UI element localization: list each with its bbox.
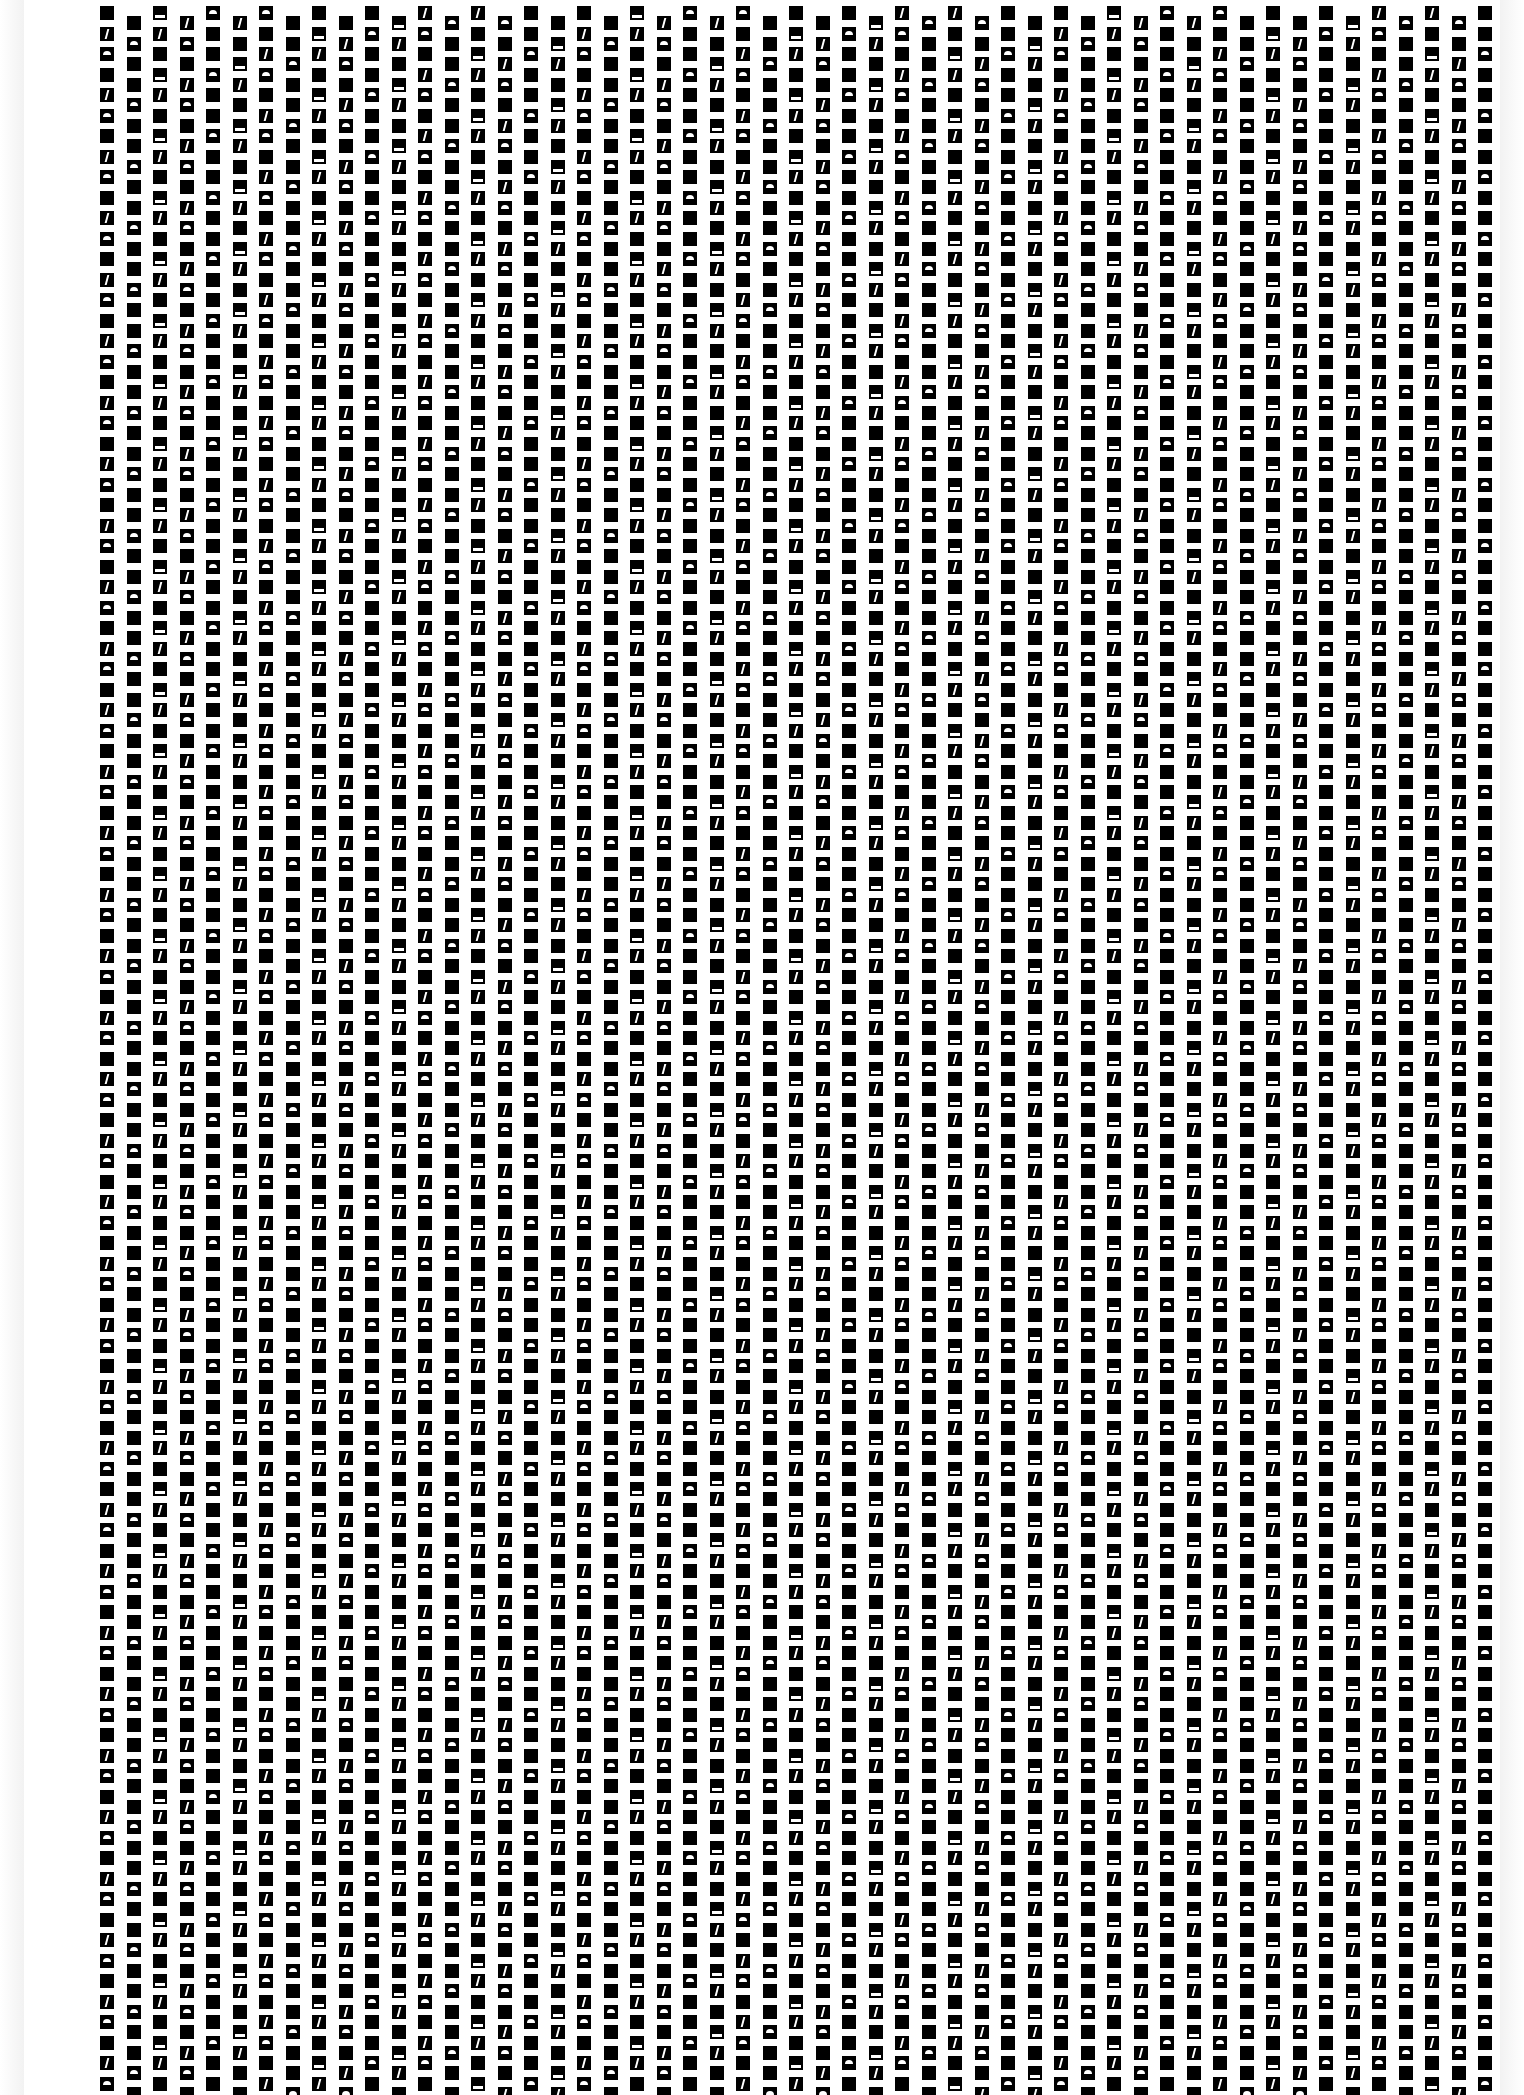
grid-cell [1001, 1749, 1015, 1763]
grid-cell [975, 1041, 989, 1055]
grid-cell [816, 283, 830, 297]
grid-cell [153, 1093, 167, 1107]
grid-cell [1081, 959, 1095, 973]
grid-cell [630, 1011, 644, 1025]
grid-cell [710, 1964, 724, 1978]
grid-cell [206, 1400, 220, 1414]
grid-cell [1213, 1072, 1227, 1086]
grid-cell [233, 1410, 247, 1424]
grid-cell [206, 1769, 220, 1783]
grid-cell [577, 1892, 591, 1906]
grid-cell [524, 355, 538, 369]
grid-cell [630, 396, 644, 410]
grid-cell [498, 1595, 512, 1609]
grid-cell [763, 1861, 777, 1875]
grid-cell [1478, 1236, 1492, 1250]
grid-cell [498, 488, 512, 502]
grid-cell [1213, 1995, 1227, 2009]
grid-cell [1452, 119, 1466, 133]
grid-cell [392, 1595, 406, 1609]
grid-cell [657, 795, 671, 809]
grid-cell [1319, 68, 1333, 82]
grid-cell [630, 1318, 644, 1332]
grid-cell [975, 508, 989, 522]
grid-cell [127, 1779, 141, 1793]
grid-cell [418, 1687, 432, 1701]
grid-cell [445, 1123, 459, 1137]
grid-cell [100, 1134, 114, 1148]
grid-cell [100, 2056, 114, 2070]
grid-cell [1399, 508, 1413, 522]
grid-cell [418, 580, 432, 594]
grid-cell [180, 1677, 194, 1691]
grid-cell [657, 57, 671, 71]
grid-cell [763, 180, 777, 194]
grid-cell [895, 498, 909, 512]
grid-cell [948, 621, 962, 635]
grid-cell [1107, 1093, 1121, 1107]
grid-cell [710, 1000, 724, 1014]
grid-cell [842, 539, 856, 553]
grid-cell [498, 877, 512, 891]
grid-cell [922, 1185, 936, 1199]
grid-cell [100, 314, 114, 328]
grid-cell [418, 1421, 432, 1435]
grid-cell [895, 355, 909, 369]
grid-cell [1160, 1031, 1174, 1045]
grid-cell [418, 1318, 432, 1332]
grid-cell [1425, 1544, 1439, 1558]
grid-cell [1240, 734, 1254, 748]
grid-cell [1134, 385, 1148, 399]
grid-cell [1081, 672, 1095, 686]
grid-cell [1452, 1513, 1466, 1527]
grid-cell [842, 2077, 856, 2091]
grid-cell [1399, 836, 1413, 850]
left-margin [0, 0, 24, 2095]
grid-cell [180, 1062, 194, 1076]
grid-cell [604, 590, 618, 604]
grid-cell [736, 1626, 750, 1640]
grid-cell [948, 1359, 962, 1373]
grid-cell [153, 396, 167, 410]
grid-cell [1107, 1052, 1121, 1066]
grid-cell [1134, 426, 1148, 440]
grid-cell [100, 744, 114, 758]
grid-cell [975, 1882, 989, 1896]
grid-cell [869, 1021, 883, 1035]
grid-cell [365, 232, 379, 246]
grid-cell [127, 1820, 141, 1834]
grid-cell [763, 713, 777, 727]
grid-cell [869, 918, 883, 932]
grid-cell [1213, 519, 1227, 533]
grid-cell [1240, 713, 1254, 727]
grid-cell [1452, 16, 1466, 30]
grid-cell [1425, 703, 1439, 717]
grid-cell [736, 519, 750, 533]
grid-cell [100, 1421, 114, 1435]
grid-cell [683, 191, 697, 205]
grid-cell [498, 529, 512, 543]
grid-cell [418, 806, 432, 820]
grid-cell [1081, 1759, 1095, 1773]
grid-cell [763, 344, 777, 358]
grid-cell [1372, 1093, 1386, 1107]
grid-cell [1028, 1636, 1042, 1650]
grid-cell [683, 1564, 697, 1578]
grid-cell [1054, 1134, 1068, 1148]
grid-cell [1028, 1533, 1042, 1547]
grid-cell [1266, 396, 1280, 410]
grid-cell [418, 1995, 432, 2009]
grid-cell [869, 1574, 883, 1588]
grid-cell [1478, 150, 1492, 164]
grid-cell [365, 1277, 379, 1291]
grid-cell [816, 1185, 830, 1199]
grid-cell [418, 1790, 432, 1804]
grid-cell [789, 396, 803, 410]
grid-cell [842, 601, 856, 615]
grid-cell [763, 693, 777, 707]
grid-cell [100, 1318, 114, 1332]
grid-cell [1293, 78, 1307, 92]
grid-cell [1240, 652, 1254, 666]
grid-cell [339, 672, 353, 686]
grid-cell [1107, 109, 1121, 123]
